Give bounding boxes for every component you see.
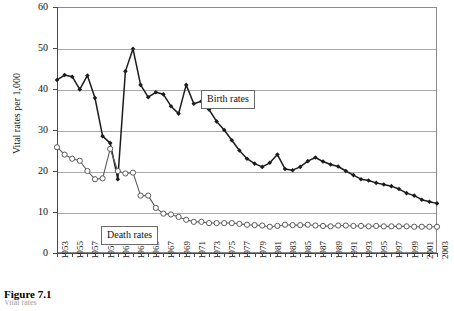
data-point [382,182,387,187]
legend-birth-rates: Birth rates [201,90,255,109]
data-point [290,168,295,173]
data-point [192,101,197,106]
data-point [389,224,394,229]
data-point [116,177,121,182]
data-point [427,224,432,229]
data-point [184,217,189,222]
data-point [54,145,59,150]
data-point [244,222,249,227]
data-point [222,220,227,225]
data-point [351,223,356,228]
data-point [146,193,151,198]
data-point [100,176,105,181]
data-point [396,224,401,229]
legend-death-rates: Death rates [101,226,158,245]
data-point [298,223,303,228]
data-point [138,193,143,198]
data-point [92,177,97,182]
data-point [305,222,310,227]
data-point [168,212,173,217]
caption-block: Figure 7.1 Vital rates [4,288,51,305]
series-layer [0,0,454,283]
data-point [343,223,348,228]
data-point [229,220,234,225]
data-point [62,152,67,157]
series-birth-rates [55,47,440,206]
data-point [260,223,265,228]
data-point [313,223,318,228]
data-point [131,47,136,52]
data-point [328,224,333,229]
data-point [381,224,386,229]
data-point [108,146,113,151]
data-point [358,223,363,228]
data-point [374,223,379,228]
vital-rates-chart: 0102030405060 19531955195719591961196319… [0,0,454,283]
data-point [427,199,432,204]
data-point [191,219,196,224]
data-point [336,223,341,228]
data-point [130,170,135,175]
data-point [374,181,379,186]
series-line [57,49,437,204]
data-point [282,222,287,227]
figure-caption: Figure 7.1 [4,288,51,300]
data-point [161,211,166,216]
data-point [290,223,295,228]
data-point [77,158,82,163]
data-point [214,220,219,225]
data-point [404,224,409,229]
data-point [275,223,280,228]
data-point [366,224,371,229]
data-point [366,178,371,183]
data-point [435,201,440,206]
data-point [123,69,128,74]
data-point [85,168,90,173]
data-point [328,162,333,167]
data-point [184,83,189,88]
data-point [320,223,325,228]
data-point [176,214,181,219]
data-point [70,156,75,161]
data-point [93,96,98,101]
data-point [206,220,211,225]
data-point [434,224,439,229]
figure-subcaption: Vital rates [4,300,51,305]
data-point [115,168,120,173]
figure-container: 0102030405060 19531955195719591961196319… [0,0,454,311]
data-point [419,224,424,229]
data-point [267,224,272,229]
data-point [153,205,158,210]
data-point [199,219,204,224]
data-point [389,184,394,189]
data-point [123,171,128,176]
data-point [412,224,417,229]
data-point [252,223,257,228]
data-point [237,221,242,226]
